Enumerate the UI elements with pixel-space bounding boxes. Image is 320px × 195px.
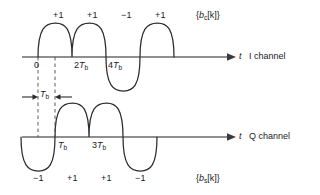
i-seq-k: [k] <box>207 10 217 20</box>
bit-duration-sub: b <box>46 93 50 100</box>
q-bit-label-2: +1 <box>101 174 112 183</box>
q-tick-3tb: 3Tb <box>92 141 106 150</box>
i-tick-4tb-sym: T <box>113 60 119 70</box>
i-seq-sub: c <box>204 14 207 21</box>
i-tick-2tb-sym: T <box>79 60 85 70</box>
q-tick-tb-sym: T <box>58 140 64 150</box>
q-seq-k: [k] <box>207 173 217 183</box>
q-tick-3tb-sym: T <box>97 140 103 150</box>
i-bit-label-2: −1 <box>121 11 132 20</box>
q-tick-tb: Tb <box>58 141 67 150</box>
i-tick-2tb-sub: b <box>85 64 89 71</box>
i-sequence-label: {bc[k]} <box>196 11 220 20</box>
i-channel-name: I channel <box>249 52 286 61</box>
arrow-head-right <box>33 94 39 100</box>
i-bit-label-0: +1 <box>53 11 64 20</box>
i-axis-symbol: t <box>239 52 242 61</box>
q-seq-close: } <box>217 173 220 183</box>
i-bit-label-3: +1 <box>155 11 166 20</box>
q-channel-name: Q channel <box>249 132 290 141</box>
bit-duration-sym: T <box>40 89 46 99</box>
i-channel-axis <box>22 53 236 61</box>
q-tick-tb-sub: b <box>64 144 68 151</box>
q-tick-3tb-sub: b <box>103 144 107 151</box>
i-tick-4tb: 4Tb <box>108 61 122 70</box>
q-bit-label-0: −1 <box>33 174 44 183</box>
bit-duration-label: Tb <box>40 90 49 99</box>
i-tick-0-text: 0 <box>34 60 39 70</box>
q-axis-symbol: t <box>239 132 242 141</box>
q-bit-label-3: −1 <box>135 174 146 183</box>
i-tick-2tb: 2Tb <box>74 61 88 70</box>
i-tick-0: 0 <box>34 61 39 70</box>
i-tick-4tb-sub: b <box>119 64 123 71</box>
q-bit-label-1: +1 <box>67 174 78 183</box>
i-seq-close: } <box>217 10 220 20</box>
i-bit-label-1: +1 <box>87 11 98 20</box>
q-channel-axis <box>22 133 236 141</box>
arrow-head-left <box>55 94 61 100</box>
q-seq-sub: s <box>204 177 207 184</box>
q-sequence-label: {bs[k]} <box>196 174 220 183</box>
